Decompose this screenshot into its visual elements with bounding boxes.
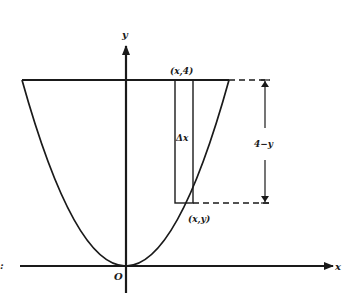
curve-point-label: (x,y): [188, 214, 210, 225]
origin-label: O: [114, 271, 123, 282]
parabola-diagram: x : y O (x,4) Δx (x,y) 4−y: [0, 0, 342, 301]
top-point-label: (x,4): [170, 66, 193, 77]
y-axis-label: y: [121, 29, 129, 40]
height-dimension-label: 4−y: [254, 139, 274, 149]
strip-width-label: Δx: [175, 133, 189, 143]
left-edge-mark: :: [0, 260, 4, 271]
x-axis-label: x: [334, 261, 342, 272]
